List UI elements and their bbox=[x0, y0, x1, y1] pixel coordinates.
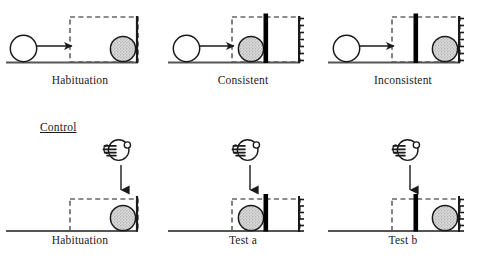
right-wall-hatched bbox=[459, 16, 464, 63]
right-wall-hatched bbox=[299, 16, 304, 63]
panel-label-test-a: Test a bbox=[163, 234, 323, 246]
panel-consistent bbox=[168, 14, 304, 64]
ball-icon bbox=[238, 36, 263, 61]
right-wall-hatched bbox=[299, 196, 304, 232]
rolling-ball-icon bbox=[173, 35, 199, 61]
panel-label-test-b: Test b bbox=[323, 234, 483, 246]
ball-icon bbox=[238, 205, 263, 230]
panel-label-inconsistent: Inconsistent bbox=[323, 74, 483, 86]
rolling-ball-icon bbox=[10, 35, 36, 61]
barrier-icon bbox=[414, 14, 419, 64]
panel-label-habituation-bottom: Habituation bbox=[0, 234, 160, 246]
hand-dropping-ball-icon bbox=[392, 140, 419, 161]
panel-test-a bbox=[168, 140, 304, 232]
panel-label-habituation-top: Habituation bbox=[0, 74, 160, 86]
ball-icon bbox=[110, 36, 135, 61]
barrier-icon bbox=[264, 194, 269, 232]
ball-icon bbox=[432, 36, 457, 61]
right-wall-hatched bbox=[459, 196, 464, 232]
experiment-diagram: Control Habituation Consistent Inconsist… bbox=[0, 0, 489, 258]
panel-habituation-top bbox=[6, 16, 138, 63]
panel-habituation-bottom bbox=[6, 140, 138, 232]
hand-dropping-ball-icon bbox=[232, 140, 259, 161]
panel-inconsistent bbox=[328, 14, 464, 64]
barrier-icon bbox=[414, 194, 419, 232]
section-label-control: Control bbox=[40, 121, 77, 133]
ball-icon bbox=[432, 205, 457, 230]
hand-dropping-ball-icon bbox=[103, 140, 130, 161]
ball-icon bbox=[110, 205, 135, 230]
panel-label-consistent: Consistent bbox=[163, 74, 323, 86]
rolling-ball-icon bbox=[333, 35, 359, 61]
panel-test-b bbox=[328, 140, 464, 232]
barrier-icon bbox=[264, 14, 269, 64]
